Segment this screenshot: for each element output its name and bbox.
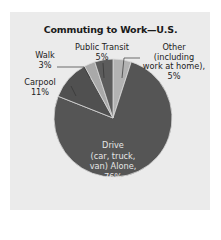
- label-value: 11%: [20, 88, 60, 98]
- label-public-transit: Public Transit 5%: [72, 43, 132, 62]
- label-other: Other (including work at home), 5%: [138, 43, 210, 81]
- label-carpool: Carpool 11%: [20, 78, 60, 97]
- label-drive-alone: Drive (car, truck, van) Alone, 76%: [88, 140, 138, 182]
- label-value: 3%: [30, 61, 60, 71]
- label-value: 5%: [72, 53, 132, 63]
- label-text: Drive: [88, 140, 138, 151]
- label-value: 5%: [138, 72, 210, 82]
- label-value: 76%: [88, 172, 138, 183]
- label-text: (car, truck,: [88, 151, 138, 162]
- label-walk: Walk 3%: [30, 51, 60, 70]
- label-text: van) Alone,: [88, 161, 138, 172]
